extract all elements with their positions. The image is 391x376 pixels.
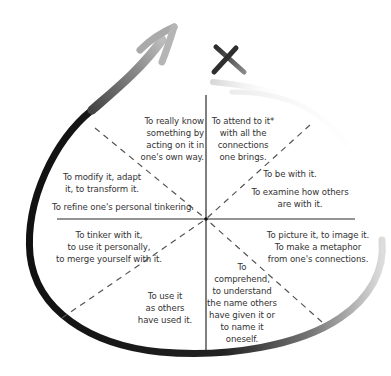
segment-text: To modify it, adapt [52, 171, 152, 183]
segment-upper-right-inner: To attend to it* with all the connection… [208, 115, 278, 163]
segment-right-lower: To picture it, to image it. To make a me… [258, 229, 378, 265]
segment-left-upper: To modify it, adapt it, to transform it. [52, 171, 152, 195]
segment-text: acting on it in [138, 139, 204, 151]
segment-left-upper-bottom: To refine one's personal tinkering. [38, 201, 208, 213]
segment-lower-right-inner: To comprehend, to understand the name ot… [207, 261, 277, 345]
segment-text: connections [208, 139, 278, 151]
segment-text: as others [135, 302, 195, 314]
segment-text: to use it personally, [44, 241, 174, 253]
segment-text: have given it or [207, 309, 277, 321]
segment-text: have used it. [135, 314, 195, 326]
segment-text: To refine one's personal tinkering. [38, 201, 208, 213]
segment-right-upper: To be with it. [250, 168, 330, 180]
segment-text: one's own way. [138, 151, 204, 163]
segment-text: To use it [135, 290, 195, 302]
segment-text: comprehend, [207, 273, 277, 285]
diagram-canvas: To really know something by acting on it… [0, 0, 391, 376]
center-point [204, 217, 208, 221]
segment-text: To attend to it* [208, 115, 278, 127]
segment-text: To picture it, to image it. [258, 229, 378, 241]
segment-text: it, to transform it. [52, 183, 152, 195]
segment-text: To make a metaphor [258, 241, 378, 253]
segment-text: oneself. [207, 333, 277, 345]
x-mark-icon [213, 47, 285, 95]
segment-text: to name it [207, 321, 277, 333]
segment-upper-left-inner: To really know something by acting on it… [138, 115, 204, 163]
curved-arrow-icon [92, 27, 174, 110]
segment-left-lower: To tinker with it, to use it personally,… [44, 229, 174, 265]
segment-lower-left-inner: To use it as others have used it. [135, 290, 195, 326]
segment-text: To [207, 261, 277, 273]
segment-text: to understand [207, 285, 277, 297]
segment-text: To examine how others [245, 186, 355, 198]
segment-text: To be with it. [250, 168, 330, 180]
segment-text: one brings. [208, 151, 278, 163]
segment-text: To tinker with it, [44, 229, 174, 241]
segment-text: with all the [208, 127, 278, 139]
segment-text: to merge yourself with it. [44, 253, 174, 265]
segment-text: something by [138, 127, 204, 139]
segment-text: To really know [138, 115, 204, 127]
segment-text: are with it. [245, 198, 355, 210]
segment-text: the name others [207, 297, 277, 309]
segment-right-upper-bottom: To examine how others are with it. [245, 186, 355, 210]
